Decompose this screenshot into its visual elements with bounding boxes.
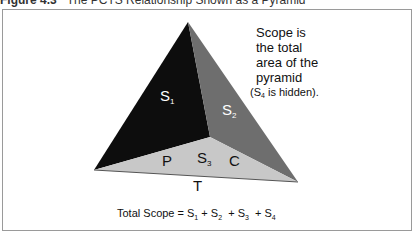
pyramid-diagram bbox=[0, 0, 416, 235]
label-s1: S1 bbox=[160, 88, 174, 106]
total-scope-formula: Total Scope = S1 + S2 + S3 + S4 bbox=[117, 207, 276, 221]
label-s3: S3 bbox=[197, 150, 211, 168]
label-c: C bbox=[229, 153, 240, 168]
scope-note: Scope is the total area of the pyramid (… bbox=[256, 25, 319, 103]
hidden-face-note: (S4 is hidden). bbox=[250, 85, 319, 103]
label-p: P bbox=[162, 153, 172, 168]
label-t: T bbox=[193, 178, 202, 193]
label-s2: S2 bbox=[222, 102, 236, 120]
